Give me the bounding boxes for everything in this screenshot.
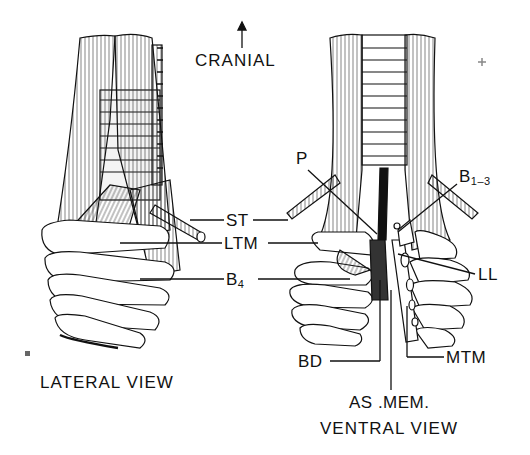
label-p: P (296, 150, 308, 167)
lateral-view-drawing (42, 34, 205, 348)
label-as-mem: AS .MEM. (349, 394, 430, 411)
bronchial-rings (42, 220, 174, 348)
crosshair-mark (478, 58, 486, 66)
cranial-label: CRANIAL (195, 52, 276, 69)
label-b4-main: B (226, 270, 238, 289)
label-ltm: LTM (224, 235, 258, 252)
speck-mark (25, 351, 30, 356)
label-b1-3-sub: 1–3 (471, 175, 491, 187)
left-bronchial-rings (290, 232, 374, 346)
label-ll: LL (478, 266, 498, 283)
label-bd: BD (298, 353, 323, 370)
label-st: ST (226, 212, 249, 229)
trachea-rings (362, 35, 407, 165)
label-b4-sub: 4 (238, 278, 245, 290)
lateral-view-title: LATERAL VIEW (40, 374, 174, 391)
label-b1-3-main: B (459, 167, 471, 186)
up-arrow-icon (238, 22, 246, 48)
label-b4: B4 (226, 271, 244, 290)
label-mtm: MTM (446, 349, 486, 366)
ventral-view-title: VENTRAL VIEW (320, 420, 458, 437)
right-bronchial-rings (392, 220, 472, 348)
ventral-view-drawing (287, 34, 478, 348)
anatomical-figure: CRANIAL ST LTM B4 P B1–3 LL BD MTM AS .M… (0, 0, 530, 455)
label-b1-3: B1–3 (459, 168, 491, 187)
